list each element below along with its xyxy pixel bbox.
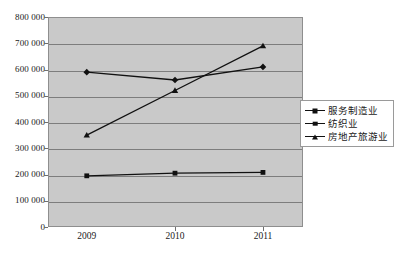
series-3 [84, 43, 267, 138]
legend-item[interactable]: 纺织业 [305, 117, 388, 130]
y-axis-tick-label: 100 000 [0, 196, 45, 205]
line-chart: 800 000700 000600 000500 000400 000300 0… [0, 0, 406, 261]
data-point-marker [84, 173, 89, 178]
y-axis-tick-label: 600 000 [0, 65, 45, 74]
square-marker-icon [305, 118, 325, 129]
y-axis: 800 000700 000600 000500 000400 000300 0… [0, 17, 45, 227]
series-layer [48, 17, 303, 227]
data-point-marker [172, 77, 179, 84]
x-axis-tick [263, 227, 264, 231]
x-axis-tick-label: 2010 [165, 231, 184, 242]
series-2 [84, 170, 265, 178]
data-point-marker [84, 132, 90, 138]
data-point-marker [83, 69, 90, 76]
y-axis-tick-label: 300 000 [0, 144, 45, 153]
y-axis-tick-label: 500 000 [0, 91, 45, 100]
y-axis-tick-label: 800 000 [0, 13, 45, 22]
legend-item[interactable]: 房地产旅游业 [305, 130, 388, 143]
series-1 [83, 64, 266, 84]
legend-item[interactable]: 服务制造业 [305, 104, 388, 117]
legend-item-label: 房地产旅游业 [328, 131, 388, 142]
x-axis-tick-label: 2011 [254, 231, 273, 242]
legend-item-label: 服务制造业 [328, 105, 378, 116]
data-point-marker [261, 170, 266, 175]
x-axis-tick [175, 227, 176, 231]
y-axis-tick [44, 227, 48, 228]
legend-item-label: 纺织业 [328, 118, 358, 129]
data-point-marker [260, 64, 267, 71]
y-axis-tick-label: 400 000 [0, 118, 45, 127]
chart-legend: 服务制造业纺织业房地产旅游业 [300, 100, 394, 147]
diamond-marker-icon [305, 105, 325, 116]
data-point-marker [260, 43, 266, 49]
x-axis-tick-label: 2009 [77, 231, 96, 242]
y-axis-tick-label: 0 [0, 223, 45, 232]
data-point-marker [173, 171, 178, 176]
triangle-marker-icon [305, 131, 325, 142]
x-axis: 200920102011 [48, 231, 303, 247]
data-point-marker [172, 87, 178, 93]
y-axis-tick-label: 200 000 [0, 170, 45, 179]
y-axis-tick-label: 700 000 [0, 39, 45, 48]
